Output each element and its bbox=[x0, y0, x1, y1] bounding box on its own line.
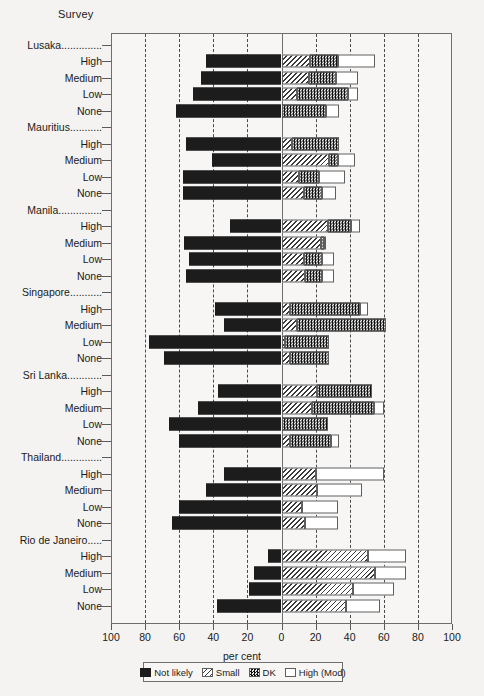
table-row bbox=[0, 550, 484, 563]
bar-segment-not-likely bbox=[217, 599, 282, 612]
x-axis-title: per cent bbox=[0, 650, 484, 662]
bar-segment-not-likely bbox=[184, 236, 281, 249]
bar-segment-not-likely bbox=[189, 253, 281, 266]
bar-segment-not-likely bbox=[164, 352, 282, 365]
table-row bbox=[0, 55, 484, 68]
bar-segment-high-mod bbox=[351, 220, 360, 233]
table-row bbox=[0, 154, 484, 167]
x-tick-40 bbox=[350, 624, 351, 630]
table-row bbox=[0, 434, 484, 447]
bar-segment-not-likely bbox=[198, 401, 282, 414]
x-tick-0 bbox=[282, 624, 283, 630]
bar-segment-small bbox=[282, 550, 369, 563]
bar-segment-dk bbox=[290, 302, 360, 315]
x-tick--80 bbox=[145, 624, 146, 630]
bar-segment-high-mod bbox=[353, 583, 394, 596]
y-tick-mark bbox=[102, 210, 111, 211]
chart-legend: Not likelySmallDKHigh (Mod) bbox=[143, 662, 343, 682]
legend-item-not-likely: Not likely bbox=[140, 667, 193, 678]
bar-segment-high-mod bbox=[324, 236, 326, 249]
bar-segment-small bbox=[282, 236, 321, 249]
bar-segment-not-likely bbox=[186, 269, 281, 282]
table-row bbox=[0, 187, 484, 200]
legend-label: High (Mod) bbox=[299, 667, 346, 678]
bar-segment-high-mod bbox=[319, 170, 345, 183]
bar-segment-small bbox=[282, 71, 309, 84]
group-label-thailand: Thailand.............. bbox=[0, 452, 102, 463]
bar-segment-not-likely bbox=[249, 583, 281, 596]
chart-column-header-survey: Survey bbox=[58, 8, 93, 20]
table-row bbox=[0, 401, 484, 414]
y-tick-mark bbox=[102, 540, 111, 541]
bar-segment-dk bbox=[329, 154, 338, 167]
bar-segment-dk bbox=[309, 71, 336, 84]
bar-segment-dk bbox=[304, 187, 323, 200]
bar-segment-dk bbox=[282, 418, 328, 431]
bar-segment-small bbox=[282, 55, 311, 68]
table-row bbox=[0, 269, 484, 282]
bar-segment-not-likely bbox=[176, 104, 282, 117]
bar-segment-small bbox=[282, 500, 302, 513]
bar-segment-small bbox=[282, 302, 291, 315]
bar-segment-high-mod bbox=[360, 302, 369, 315]
bar-segment-high-mod bbox=[317, 484, 361, 497]
group-label-manila: Manila............... bbox=[0, 204, 102, 215]
table-row bbox=[0, 253, 484, 266]
bar-segment-high-mod bbox=[368, 550, 406, 563]
bar-segment-small bbox=[282, 88, 297, 101]
table-row bbox=[0, 484, 484, 497]
bar-segment-high-mod bbox=[316, 467, 384, 480]
survey-bar-chart: Survey Lusaka..............HighMediumLow… bbox=[0, 0, 484, 696]
bar-segment-not-likely bbox=[169, 418, 282, 431]
bar-segment-not-likely bbox=[149, 335, 282, 348]
bar-segment-not-likely bbox=[224, 319, 282, 332]
bar-segment-not-likely bbox=[179, 500, 281, 513]
table-row bbox=[0, 335, 484, 348]
table-row bbox=[0, 566, 484, 579]
table-row bbox=[0, 137, 484, 150]
bar-segment-high-mod bbox=[338, 154, 355, 167]
bar-segment-dk bbox=[285, 335, 329, 348]
table-row bbox=[0, 88, 484, 101]
table-row bbox=[0, 500, 484, 513]
bar-segment-small bbox=[282, 319, 297, 332]
bar-segment-dk bbox=[292, 137, 340, 150]
bar-segment-high-mod bbox=[346, 599, 380, 612]
group-label-singapore: Singapore........... bbox=[0, 287, 102, 298]
bar-segment-not-likely bbox=[218, 385, 281, 398]
x-tick-100 bbox=[452, 624, 453, 630]
dotted-dense-swatch bbox=[249, 668, 260, 677]
bar-segment-not-likely bbox=[172, 517, 281, 530]
bar-segment-dk bbox=[282, 104, 326, 117]
y-tick-mark bbox=[102, 127, 111, 128]
group-label-mauritius: Mauritius........... bbox=[0, 122, 102, 133]
bar-segment-small bbox=[282, 385, 318, 398]
bar-segment-small bbox=[282, 599, 347, 612]
bar-segment-small bbox=[282, 401, 313, 414]
x-tick-60 bbox=[384, 624, 385, 630]
bar-segment-dk bbox=[290, 352, 329, 365]
group-label-sri-lanka: Sri Lanka............ bbox=[0, 369, 102, 380]
solid-black-swatch bbox=[140, 668, 151, 677]
bar-segment-high-mod bbox=[331, 434, 340, 447]
bar-segment-not-likely bbox=[206, 484, 281, 497]
bar-segment-high-mod bbox=[326, 104, 340, 117]
x-tick--100 bbox=[111, 624, 112, 630]
bar-segment-dk bbox=[305, 269, 322, 282]
bar-segment-small bbox=[282, 583, 354, 596]
bar-segment-dk bbox=[290, 434, 331, 447]
x-tick-80 bbox=[418, 624, 419, 630]
bar-segment-high-mod bbox=[322, 253, 334, 266]
group-label-rio-de-janeiro: Rio de Janeiro..... bbox=[0, 534, 102, 545]
bar-segment-small bbox=[282, 154, 330, 167]
bar-segment-high-mod bbox=[375, 566, 406, 579]
table-row bbox=[0, 302, 484, 315]
bar-segment-high-mod bbox=[302, 500, 338, 513]
bar-segment-not-likely bbox=[186, 137, 281, 150]
table-row bbox=[0, 352, 484, 365]
bar-segment-not-likely bbox=[254, 566, 281, 579]
table-row bbox=[0, 418, 484, 431]
bar-segment-small bbox=[282, 170, 299, 183]
table-row bbox=[0, 583, 484, 596]
empty-white-swatch bbox=[285, 668, 296, 677]
